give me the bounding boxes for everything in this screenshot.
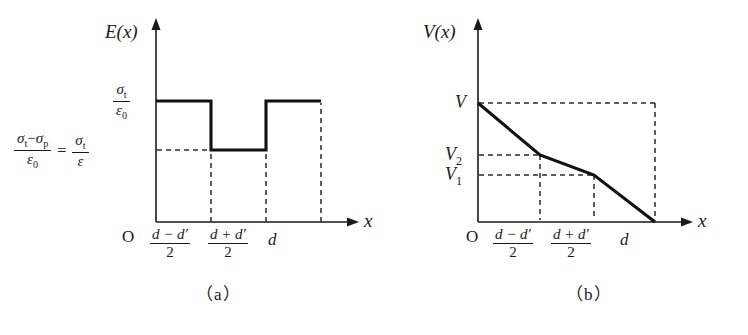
panel-b-xtick-0: d − d′ 2: [493, 227, 533, 260]
panel-b-xtick-2: d: [620, 231, 629, 248]
figure-container: E(x) x σt ε0 σt−σp ε0 = σt ε O d − d′: [0, 0, 748, 335]
panel-b-ytick-V: V: [455, 93, 466, 115]
panel-b-xtick-1: d + d′ 2: [551, 227, 591, 260]
panel-b-caption: （b）: [566, 286, 612, 303]
panel-b-ytick-V1: V1: [445, 165, 462, 187]
panel-b-origin-label: O: [466, 228, 478, 245]
panel-b-plot: [0, 0, 748, 335]
panel-b-y-axis-label: V(x): [423, 22, 456, 41]
panel-b-y-axis: [474, 18, 483, 222]
panel-b-x-axis-label: x: [698, 211, 706, 230]
panel-b-potential-curve: [478, 103, 655, 222]
